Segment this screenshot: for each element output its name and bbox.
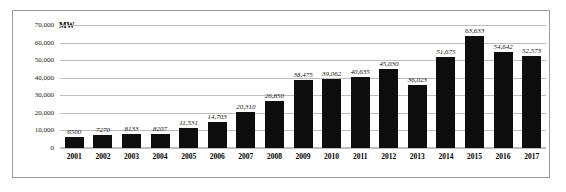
bar-value-label: 63,633 xyxy=(465,27,484,35)
gridline xyxy=(60,148,546,149)
y-tick-label: 20,000 xyxy=(0,109,54,117)
x-tick-label: 2014 xyxy=(438,152,453,161)
bar xyxy=(408,85,427,148)
x-tick-label: 2002 xyxy=(95,152,110,161)
x-tick-label: 2007 xyxy=(238,152,253,161)
x-tick-label: 2001 xyxy=(67,152,82,161)
bar xyxy=(208,122,227,148)
bar-value-label: 51,675 xyxy=(436,48,455,56)
bar xyxy=(179,128,198,148)
x-tick-label: 2013 xyxy=(410,152,425,161)
x-tick-label: 2004 xyxy=(153,152,168,161)
x-tick-label: 2017 xyxy=(524,152,539,161)
y-tick-label: 0 xyxy=(0,144,54,152)
y-tick-label: 60,000 xyxy=(0,39,54,47)
y-tick-label: 70,000 xyxy=(0,21,54,29)
bar-value-label: 20,310 xyxy=(236,103,255,111)
x-tick-label: 2012 xyxy=(381,152,396,161)
bar xyxy=(522,56,541,148)
x-tick-label: 2006 xyxy=(210,152,225,161)
x-tick-label: 2009 xyxy=(296,152,311,161)
bar-value-label: 26,850 xyxy=(265,92,284,100)
bar xyxy=(436,57,455,148)
bar xyxy=(351,77,370,148)
bar-value-label: 36,023 xyxy=(408,76,427,84)
y-tick-label: 30,000 xyxy=(0,91,54,99)
bar xyxy=(236,112,255,148)
bar-value-label: 11,531 xyxy=(179,119,198,127)
x-tick-label: 2003 xyxy=(124,152,139,161)
y-tick-label: 10,000 xyxy=(0,126,54,134)
bar-value-label: 8133 xyxy=(124,125,138,133)
bar-value-label: 39,062 xyxy=(322,70,341,78)
bar-value-label: 8207 xyxy=(153,125,167,133)
bar-value-label: 52,573 xyxy=(522,47,541,55)
bar-value-label: 45,030 xyxy=(379,60,398,68)
bar xyxy=(65,137,84,148)
y-tick-label: 40,000 xyxy=(0,74,54,82)
bar xyxy=(122,134,141,148)
gridline xyxy=(60,25,546,26)
bar-value-label: 38,475 xyxy=(293,71,312,79)
bar-value-label: 6500 xyxy=(67,128,81,136)
x-tick-label: 2008 xyxy=(267,152,282,161)
bar-value-label: 14,703 xyxy=(208,113,227,121)
bar xyxy=(322,79,341,148)
bar xyxy=(93,135,112,148)
x-tick-label: 2016 xyxy=(496,152,511,161)
bar-value-label: 40,635 xyxy=(351,68,370,76)
bar xyxy=(151,134,170,148)
plot-area: 650072708133820711,53114,70320,31026,850… xyxy=(60,25,546,148)
bar-value-label: 7270 xyxy=(96,126,110,134)
bar xyxy=(494,52,513,148)
y-tick-label: 50,000 xyxy=(0,56,54,64)
x-tick-label: 2005 xyxy=(181,152,196,161)
bar-value-label: 54,642 xyxy=(493,43,512,51)
bar xyxy=(294,80,313,148)
x-tick-label: 2015 xyxy=(467,152,482,161)
bar xyxy=(465,36,484,148)
bar-chart-figure: MW 650072708133820711,53114,70320,31026,… xyxy=(0,0,566,192)
bar xyxy=(265,101,284,148)
x-tick-label: 2010 xyxy=(324,152,339,161)
bar xyxy=(379,69,398,148)
x-tick-label: 2011 xyxy=(353,152,368,161)
